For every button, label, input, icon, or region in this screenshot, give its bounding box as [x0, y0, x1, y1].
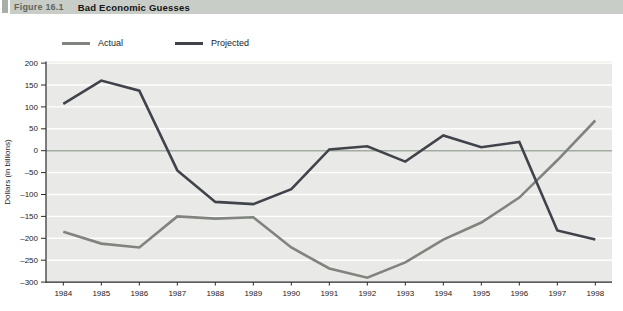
figure-header: Figure 16.1 Bad Economic Guesses [0, 0, 623, 15]
x-tick-label: 1985 [92, 289, 110, 298]
x-tick-label: 1991 [320, 289, 338, 298]
x-tick-label: 1986 [130, 289, 148, 298]
x-tick-label: 1988 [206, 289, 224, 298]
x-tick-label: 1995 [472, 289, 490, 298]
legend-item-actual: Actual [62, 38, 123, 48]
x-tick-label: 1990 [282, 289, 300, 298]
figure-title: Bad Economic Guesses [78, 2, 190, 13]
figure-panel: Figure 16.1 Bad Economic Guesses ActualP… [0, 0, 623, 311]
legend-swatch [175, 42, 203, 45]
y-tick-label: –300 [20, 278, 38, 287]
line-chart: 200150100500–50–100–150–200–250–30019841… [0, 55, 623, 311]
x-tick-label: 1989 [244, 289, 262, 298]
header-accent-block [2, 0, 8, 13]
y-tick-label: –250 [20, 256, 38, 265]
y-axis-title: Dollars (in billions) [3, 139, 12, 205]
header-band: Figure 16.1 Bad Economic Guesses [10, 0, 623, 14]
legend-item-projected: Projected [175, 38, 249, 48]
x-tick-label: 1987 [168, 289, 186, 298]
y-tick-label: –150 [20, 212, 38, 221]
y-tick-label: 150 [25, 81, 39, 90]
legend-swatch [62, 42, 90, 45]
x-tick-label: 1993 [396, 289, 414, 298]
x-tick-label: 1992 [358, 289, 376, 298]
legend-label: Projected [211, 38, 249, 48]
x-tick-label: 1996 [510, 289, 528, 298]
chart-legend: ActualProjected [62, 38, 249, 48]
y-tick-label: –50 [25, 168, 39, 177]
x-tick-label: 1998 [586, 289, 604, 298]
y-tick-label: 200 [25, 59, 39, 68]
x-tick-label: 1997 [548, 289, 566, 298]
y-tick-label: 100 [25, 103, 39, 112]
y-tick-label: –200 [20, 234, 38, 243]
legend-label: Actual [98, 38, 123, 48]
x-tick-label: 1994 [434, 289, 452, 298]
figure-number: Figure 16.1 [14, 2, 64, 12]
y-tick-label: –100 [20, 190, 38, 199]
y-tick-label: 50 [29, 124, 38, 133]
y-tick-label: 0 [34, 146, 39, 155]
x-tick-label: 1984 [54, 289, 72, 298]
